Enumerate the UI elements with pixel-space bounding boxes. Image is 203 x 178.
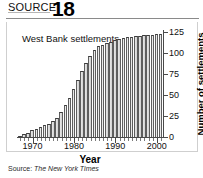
y-axis-tick-label: 125 [169, 28, 184, 37]
bar [97, 46, 101, 137]
y-axis-tick-label: 75 [169, 70, 179, 79]
x-axis-tick [132, 138, 133, 141]
source-note-prefix: Source: [8, 165, 34, 172]
x-axis-tick [91, 138, 92, 141]
bar [134, 36, 138, 137]
y-axis-tick [164, 74, 168, 75]
x-axis-tick-label: 1970 [22, 142, 42, 151]
y-axis-tick [164, 32, 168, 33]
bar [51, 121, 55, 137]
bar [130, 37, 134, 137]
bar [88, 56, 92, 137]
bar [138, 36, 142, 137]
x-axis-tick [49, 138, 50, 141]
bar [151, 35, 155, 137]
x-axis-tick [62, 138, 63, 141]
bar [142, 35, 146, 137]
bar [30, 130, 34, 137]
bar [122, 38, 126, 137]
y-axis-title: Number of settlements [183, 28, 197, 140]
bar [105, 43, 109, 137]
x-axis-tick [128, 138, 129, 141]
bar [80, 71, 84, 137]
bar [159, 34, 163, 137]
bar [109, 42, 113, 137]
y-axis-tick [164, 95, 168, 96]
bar [72, 89, 76, 137]
header-divider [6, 18, 199, 19]
x-axis-tick [57, 138, 58, 141]
x-axis-tick [144, 138, 145, 141]
y-axis-line [163, 30, 164, 138]
y-axis-tick-label: 0 [169, 133, 174, 142]
x-axis-tick [53, 138, 54, 141]
x-axis-title: Year [0, 154, 180, 165]
y-axis-tick [164, 137, 168, 138]
plot-area [18, 32, 163, 137]
y-axis-tick-label: 50 [169, 91, 179, 100]
bar [84, 63, 88, 137]
bar [126, 37, 130, 137]
bar [155, 34, 159, 137]
x-axis-tick [95, 138, 96, 141]
x-axis-tick [103, 138, 104, 141]
x-axis-tick-label: 2000 [147, 142, 167, 151]
y-axis-tick-label: 25 [169, 112, 179, 121]
source-note-publication: The New York Times [34, 165, 99, 172]
bar [113, 40, 117, 137]
x-axis-tick [140, 138, 141, 141]
header: SOURCE 18 [0, 0, 203, 22]
header-underline-dotted [8, 12, 50, 13]
bar [93, 50, 97, 137]
x-axis-tick [136, 138, 137, 141]
y-axis-title-text: Number of settlements [195, 28, 203, 140]
x-axis-tick-label: 1980 [64, 142, 84, 151]
bar [101, 45, 105, 137]
bar [59, 112, 63, 137]
bar [55, 118, 59, 137]
x-axis-tick [86, 138, 87, 141]
bar [35, 129, 39, 137]
bar [68, 98, 72, 137]
bar [64, 105, 68, 137]
x-axis-tick-label: 1990 [105, 142, 125, 151]
y-axis-tick [164, 116, 168, 117]
bar [146, 35, 150, 137]
bar [43, 125, 47, 137]
source-note: Source: The New York Times [8, 165, 99, 172]
bar [76, 80, 80, 137]
x-axis-tick [99, 138, 100, 141]
y-axis-tick-label: 100 [169, 49, 184, 58]
y-axis-tick [164, 53, 168, 54]
bar [117, 39, 121, 137]
x-axis-tick [20, 138, 21, 141]
x-axis-tick [45, 138, 46, 141]
bar [47, 124, 51, 137]
bar [39, 127, 43, 137]
bars-container [18, 32, 163, 137]
